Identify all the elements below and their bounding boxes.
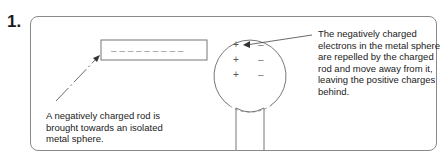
metal-sphere: [214, 40, 286, 106]
rod-caption: A negatively charged rod is brought towa…: [46, 110, 186, 145]
rod-arrow-line: [56, 58, 97, 101]
sphere-caption: The negatively charged electrons in the …: [318, 28, 440, 97]
positive-charge: +: [233, 69, 239, 80]
negative-charge: –: [258, 54, 264, 65]
sphere-dashed-arc: [225, 102, 275, 112]
negative-charge: –: [258, 69, 264, 80]
sphere-arrow-head: [243, 41, 250, 48]
sphere-neck-arc: [236, 108, 264, 112]
rod-charges: – – – – – – – – –: [111, 45, 184, 56]
negative-charge: –: [258, 39, 264, 50]
positive-charge: +: [233, 39, 239, 50]
positive-charge: +: [233, 54, 239, 65]
